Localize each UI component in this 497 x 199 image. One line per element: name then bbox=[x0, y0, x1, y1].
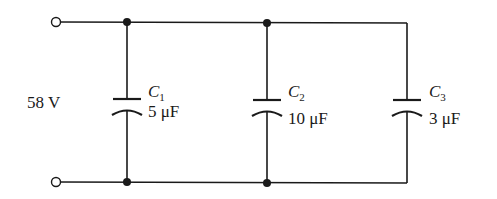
c1-top-junction bbox=[123, 18, 131, 26]
c3-symbol: C bbox=[429, 82, 441, 101]
c2-symbol-label: C2 bbox=[288, 82, 305, 103]
c3-value-label: 3 μF bbox=[429, 109, 460, 128]
bottom-terminal bbox=[52, 178, 61, 187]
c2-value-label: 10 μF bbox=[288, 109, 328, 128]
c1-value-label: 5 μF bbox=[148, 102, 179, 121]
c2-symbol: C bbox=[288, 82, 300, 101]
capacitor-c3 bbox=[392, 23, 422, 183]
capacitor-c1 bbox=[112, 18, 142, 186]
c1-symbol: C bbox=[148, 82, 160, 101]
top-wire bbox=[60, 22, 407, 23]
c2-bottom-junction bbox=[263, 179, 271, 187]
c1-symbol-label: C1 bbox=[148, 82, 165, 103]
c3-symbol-label: C3 bbox=[429, 82, 446, 103]
parallel-capacitor-circuit: 58 V C1 5 μF C2 10 μF C3 3 μF bbox=[0, 0, 497, 199]
c3-subscript: 3 bbox=[440, 91, 446, 103]
top-terminal bbox=[52, 18, 61, 27]
c2-top-junction bbox=[263, 19, 271, 27]
source-voltage-label: 58 V bbox=[27, 93, 61, 112]
capacitor-c2 bbox=[252, 19, 282, 187]
c1-bottom-junction bbox=[123, 178, 131, 186]
bottom-wire bbox=[60, 182, 407, 183]
c2-subscript: 2 bbox=[299, 91, 305, 103]
